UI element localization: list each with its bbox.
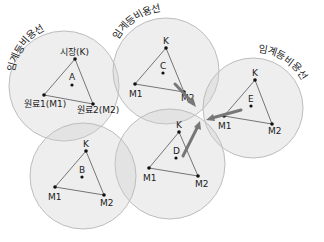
material1-point	[147, 166, 151, 170]
optimal-point	[249, 104, 252, 107]
market-point	[177, 130, 181, 134]
material1-label: M1	[143, 173, 157, 183]
material1-point	[42, 93, 46, 97]
material1-label: M1	[218, 121, 232, 131]
material2-point	[196, 174, 200, 178]
material1-point	[53, 185, 57, 189]
optimal-point	[174, 156, 177, 159]
agglomeration-diagram: 임계등비용선 임계등비용선 임계등비용선 시장(K) A 원료1(M1) 원료2…	[0, 0, 324, 242]
center-label: E	[248, 94, 254, 104]
material1-label: M1	[129, 89, 143, 99]
material1-label: M1	[48, 192, 62, 202]
market-point	[253, 78, 257, 82]
material2-label: M2	[100, 198, 114, 208]
optimal-point	[161, 71, 164, 74]
market-point	[164, 46, 168, 50]
material1-point	[133, 82, 137, 86]
material1-label: 원료1(M1)	[24, 99, 66, 109]
material2-point	[102, 193, 106, 197]
optimal-point	[70, 83, 73, 86]
center-label: A	[69, 72, 76, 82]
material2-label: M2	[268, 126, 282, 136]
material2-label: M2	[195, 179, 209, 189]
market-label: 시장(K)	[60, 47, 89, 57]
market-point	[73, 57, 77, 61]
market-point	[84, 149, 88, 153]
center-label: D	[173, 146, 180, 156]
center-label: C	[160, 61, 166, 71]
optimal-point	[80, 175, 83, 178]
material2-label: 원료2(M2)	[77, 105, 119, 115]
center-label: B	[79, 165, 85, 175]
